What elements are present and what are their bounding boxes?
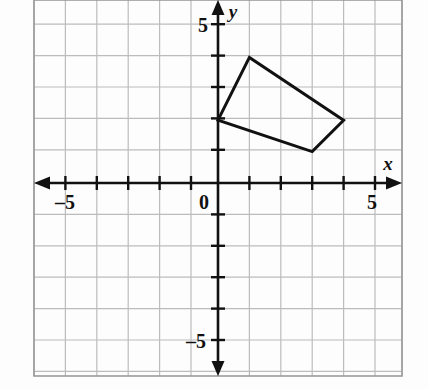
x-axis-label: x	[382, 153, 393, 174]
coordinate-plane-figure: –5 0 5 5 –5 x y	[0, 0, 428, 389]
y-tick-label-negative-5: –5	[185, 330, 206, 352]
x-tick-label-negative-5: –5	[54, 191, 75, 213]
origin-label: 0	[199, 191, 209, 213]
graph-canvas: –5 0 5 5 –5 x y	[0, 0, 428, 389]
x-tick-label-5: 5	[367, 191, 377, 213]
y-tick-label-5: 5	[198, 14, 208, 36]
y-axis-label: y	[227, 1, 238, 22]
